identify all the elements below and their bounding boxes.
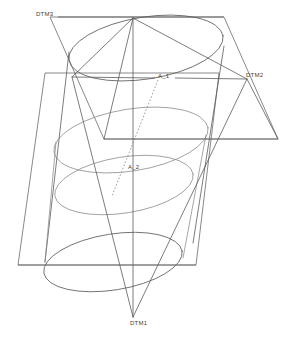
cylinder-silhouette-left xyxy=(45,52,69,262)
cylinder-silhouette-right xyxy=(193,46,224,243)
axis-a2-dashed-line xyxy=(112,80,158,196)
label-axis-a2: A_2 xyxy=(128,164,140,170)
label-dtm3: DTM3 xyxy=(36,11,54,17)
technical-drawing-canvas: DTM3 DTM2 DTM1 A_1 A_2 xyxy=(0,0,291,346)
datum-triangle-dtm1 xyxy=(72,18,278,317)
cad-drawing-viewport: DTM3 DTM2 DTM1 A_1 A_2 xyxy=(0,0,291,346)
triangle-upper-left-edge xyxy=(72,18,133,77)
cylinder-inner-silhouette-left xyxy=(45,142,56,262)
label-axis-a1: A_1 xyxy=(158,73,170,79)
triangle-top-edge xyxy=(133,18,247,79)
label-dtm1: DTM1 xyxy=(130,320,148,326)
plane-right-corner-edge xyxy=(247,79,278,139)
drawing-labels: DTM3 DTM2 DTM1 A_1 A_2 xyxy=(36,11,264,326)
label-dtm2: DTM2 xyxy=(246,72,264,78)
cylinder-body xyxy=(39,5,227,300)
triangle-lower-left-edge xyxy=(72,77,133,317)
axis-a1-right-segment xyxy=(175,78,247,79)
triangle-right-edge xyxy=(133,79,247,317)
axis-a1-left-segment xyxy=(72,77,155,78)
cylinder-mid-ellipse-lower xyxy=(50,146,197,223)
apex-to-plane-edge xyxy=(104,18,133,139)
cylinder-bottom-ellipse xyxy=(39,223,186,300)
cylinder-inner-silhouette-right xyxy=(183,135,206,258)
